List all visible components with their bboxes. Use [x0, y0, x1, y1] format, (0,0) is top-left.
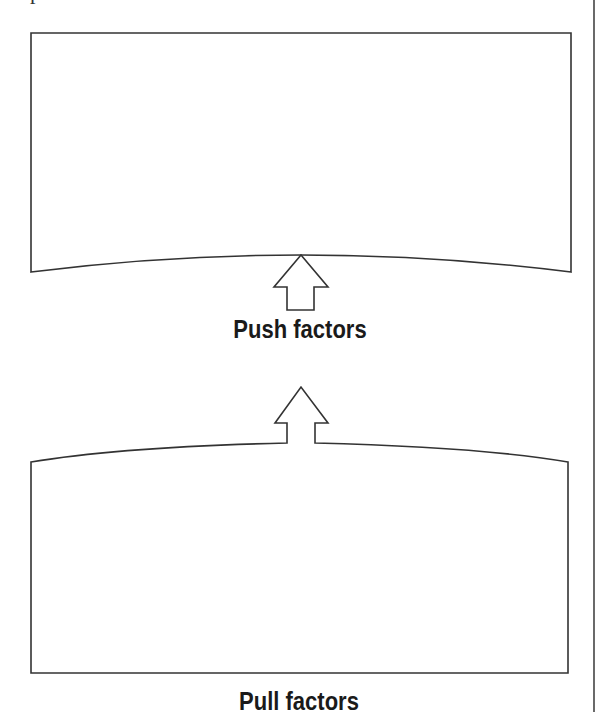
push-factors-label: Push factors: [212, 317, 388, 342]
pull-factors-label: Pull factors: [211, 689, 387, 712]
up-arrow-icon: [274, 255, 328, 310]
top-box: [31, 33, 571, 272]
bottom-box: [31, 387, 568, 673]
push-pull-diagram: [0, 0, 603, 712]
